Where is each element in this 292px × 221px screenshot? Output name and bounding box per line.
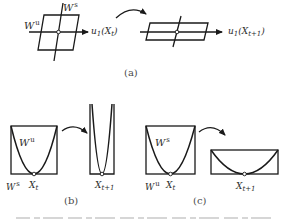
map-arrow-b <box>62 127 87 133</box>
panel-c-right-figure <box>211 150 278 176</box>
point-label-b-left: Xt <box>29 181 38 192</box>
panel-b-left-figure <box>11 126 57 176</box>
axis-label-a-left: u1(Xt) <box>91 27 118 38</box>
point-marker <box>169 172 173 176</box>
point-marker <box>100 172 104 176</box>
panel-b-right-figure <box>90 104 114 176</box>
caption-c: (c) <box>193 196 206 206</box>
unstable-parabola <box>11 126 57 174</box>
map-arrow-a <box>116 10 146 18</box>
point-marker <box>243 172 247 176</box>
tall-box <box>90 104 114 174</box>
unstable-manifold-label-a: Wu <box>24 20 40 31</box>
curve-label-c: Ws <box>155 137 170 148</box>
point-label-c-right: Xt+1 <box>236 182 256 193</box>
fixed-point-marker <box>57 30 61 34</box>
point-marker <box>32 172 36 176</box>
base-label-b: Ws <box>6 181 20 192</box>
point-label-c-left: Xt <box>166 181 175 192</box>
stable-parabola <box>146 126 195 174</box>
caption-b: (b) <box>64 196 78 206</box>
curve-label-b: Wu <box>19 137 35 148</box>
base-label-c: Wu <box>145 181 160 192</box>
stable-manifold-label-a: Ws <box>63 2 78 13</box>
panel-a-right-figure <box>140 16 222 47</box>
axis-label-a-right: u1(Xt+1) <box>228 27 265 38</box>
panel-c-left-figure <box>146 126 195 176</box>
map-arrow-c <box>199 128 225 135</box>
flattened-parabola <box>211 150 278 174</box>
point-label-b-right: Xt+1 <box>95 181 115 192</box>
fixed-point-marker <box>175 30 179 34</box>
caption-a: (a) <box>124 68 138 78</box>
panel-a-left-figure <box>29 3 88 61</box>
narrow-parabola <box>92 104 112 174</box>
